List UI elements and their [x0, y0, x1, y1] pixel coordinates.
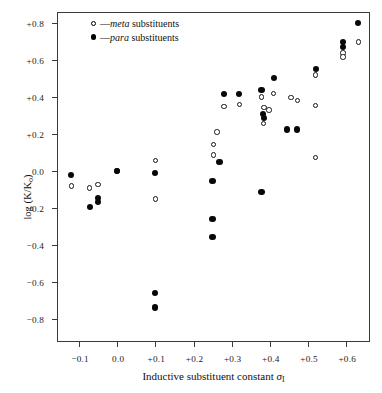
data-point-para [313, 66, 319, 72]
data-point-meta [271, 91, 276, 96]
plot-frame: +0.8+0.6+0.4+0.20.0−0.2−0.4−0.6−0.8−0.10… [57, 12, 370, 342]
data-point-meta [153, 158, 158, 163]
data-point-meta [295, 98, 300, 103]
data-point-para [258, 87, 264, 93]
data-point-meta [356, 39, 361, 44]
data-point-para [271, 75, 277, 81]
y-axis-tick-label: −0.4 [27, 241, 44, 251]
x-axis-tick: +0.1 [155, 341, 156, 347]
x-axis-tick-label: +0.5 [300, 354, 317, 364]
sigma-subscript: I [282, 375, 285, 384]
marker-glyph [91, 21, 96, 26]
y-axis-tick-label: −0.6 [27, 278, 44, 288]
x-axis-tick: 0.0 [117, 341, 118, 347]
legend-label: —para substituents [100, 31, 179, 45]
y-axis-tick-label: +0.8 [27, 19, 44, 29]
y-axis-tick: −0.8 [52, 319, 58, 320]
data-point-para [236, 91, 242, 97]
data-point-para [209, 178, 215, 184]
x-axis-title: Inductive substituent constant σI [57, 370, 370, 384]
y-axis-tick-label: +0.4 [27, 93, 44, 103]
x-axis-tick-label: +0.6 [338, 354, 355, 364]
data-point-meta [266, 107, 271, 112]
data-point-para [209, 234, 215, 240]
legend: —meta substituents—para substituents [88, 17, 179, 44]
open-circle-icon [88, 21, 99, 26]
y-axis-tick: −0.2 [52, 208, 58, 209]
y-axis-tick: +0.8 [52, 23, 58, 24]
data-point-para [258, 189, 264, 195]
data-point-meta [87, 185, 92, 190]
data-point-para [340, 44, 346, 50]
data-point-para [221, 91, 227, 97]
y-axis-tick: 0.0 [52, 171, 58, 172]
y-axis-tick-label: +0.6 [27, 56, 44, 66]
y-axis-tick: +0.4 [52, 97, 58, 98]
x-axis-tick: +0.6 [346, 341, 347, 347]
x-axis-tick: +0.5 [308, 341, 309, 347]
data-point-para [114, 168, 120, 174]
y-axis-tick: −0.6 [52, 282, 58, 283]
x-axis-tick-label: +0.4 [262, 354, 279, 364]
data-point-para [152, 304, 158, 310]
data-point-para [87, 204, 93, 210]
y-axis-tick-label: 0.0 [32, 167, 44, 177]
data-point-meta [261, 121, 266, 126]
data-point-para [355, 20, 361, 26]
data-point-meta [313, 155, 318, 160]
data-point-para [95, 199, 101, 205]
y-axis-title-sub: o [26, 177, 35, 181]
x-axis-tick-label: 0.0 [112, 354, 124, 364]
data-point-meta [340, 54, 345, 59]
marker-glyph [91, 34, 97, 40]
data-point-meta [313, 103, 318, 108]
data-point-para [68, 172, 74, 178]
y-axis-tick: −0.4 [52, 245, 58, 246]
data-point-para [261, 115, 267, 121]
data-point-meta [288, 95, 293, 100]
data-point-para [152, 290, 158, 296]
plot-area: +0.8+0.6+0.4+0.20.0−0.2−0.4−0.6−0.8−0.10… [58, 13, 369, 341]
data-point-meta [153, 196, 158, 201]
scatter-chart: log (K/Ko) +0.8+0.6+0.4+0.20.0−0.2−0.4−0… [0, 0, 382, 393]
x-axis-tick-label: +0.2 [186, 354, 203, 364]
x-axis-tick: +0.2 [194, 341, 195, 347]
data-point-meta [95, 182, 100, 187]
data-point-meta [211, 152, 216, 157]
data-point-meta [259, 94, 264, 99]
data-point-para [216, 159, 222, 165]
y-axis-tick: +0.6 [52, 60, 58, 61]
legend-label: —meta substituents [100, 17, 179, 31]
data-point-meta [214, 129, 219, 134]
x-axis-tick: +0.3 [232, 341, 233, 347]
legend-item: —para substituents [88, 31, 179, 45]
x-axis-tick: +0.4 [270, 341, 271, 347]
data-point-meta [237, 102, 242, 107]
x-axis-title-text: Inductive substituent constant [142, 370, 276, 382]
y-axis-tick: +0.2 [52, 134, 58, 135]
data-point-para [284, 126, 290, 132]
x-axis-tick: −0.1 [79, 341, 80, 347]
data-point-para [209, 216, 215, 222]
legend-item: —meta substituents [88, 17, 179, 31]
data-point-meta [69, 183, 74, 188]
x-axis-tick-label: +0.3 [224, 354, 241, 364]
y-axis-tick-label: −0.2 [27, 204, 44, 214]
x-axis-tick-label: +0.1 [148, 354, 165, 364]
data-point-para [152, 170, 158, 176]
data-point-meta [313, 72, 318, 77]
data-point-meta [211, 142, 216, 147]
y-axis-tick-label: −0.8 [27, 315, 44, 325]
data-point-para [294, 126, 300, 132]
data-point-meta [221, 104, 226, 109]
x-axis-tick-label: −0.1 [71, 354, 88, 364]
filled-circle-icon [88, 34, 99, 40]
y-axis-tick-label: +0.2 [27, 130, 44, 140]
